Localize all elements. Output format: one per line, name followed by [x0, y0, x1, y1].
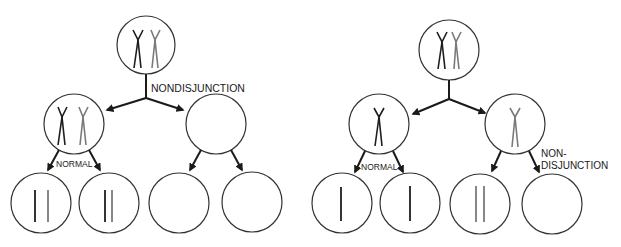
daughter-cell-empty: [186, 94, 246, 154]
label-normal: NORMAL: [56, 159, 93, 169]
label-normal: NORMAL: [361, 162, 398, 172]
chromosome-pair-dark: [437, 32, 447, 69]
diagram-canvas: NONDISJUNCTION NORMAL: [0, 0, 621, 247]
daughter-cell-gray-pair: [485, 94, 545, 154]
daughter-cell-dark-pair: [349, 94, 409, 154]
panel-left: NONDISJUNCTION NORMAL: [11, 16, 282, 233]
chromosome-pair-dark: [58, 107, 67, 145]
gamete-4: [222, 172, 282, 232]
parent-cell: [419, 20, 479, 80]
chromosome-pair-gray: [452, 32, 461, 69]
chromosome-pair-gray: [151, 30, 160, 68]
gamete-2: [79, 173, 139, 233]
label-nondisjunction: NONDISJUNCTION: [151, 82, 245, 94]
label-nondisjunction-line1: NON-: [541, 148, 567, 159]
gamete-4: [522, 174, 582, 234]
panel-right: NORMAL NON- DISJUNCTION: [312, 20, 608, 234]
gamete-3: [450, 174, 510, 234]
arrows-empty: [190, 150, 242, 170]
gamete-2: [380, 173, 440, 233]
chromosome-pair-gray: [79, 107, 88, 145]
nondisjunction-diagram: NONDISJUNCTION NORMAL: [0, 0, 621, 247]
label-nondisjunction-line2: DISJUNCTION: [541, 160, 608, 171]
gamete-1: [312, 173, 372, 233]
split-arrows: [413, 80, 485, 114]
parent-cell: [117, 16, 175, 74]
gamete-1: [11, 173, 71, 233]
gamete-3: [149, 173, 209, 233]
chromosome-pair-dark: [133, 30, 143, 68]
daughter-cell-with-both-pairs: [44, 94, 104, 154]
